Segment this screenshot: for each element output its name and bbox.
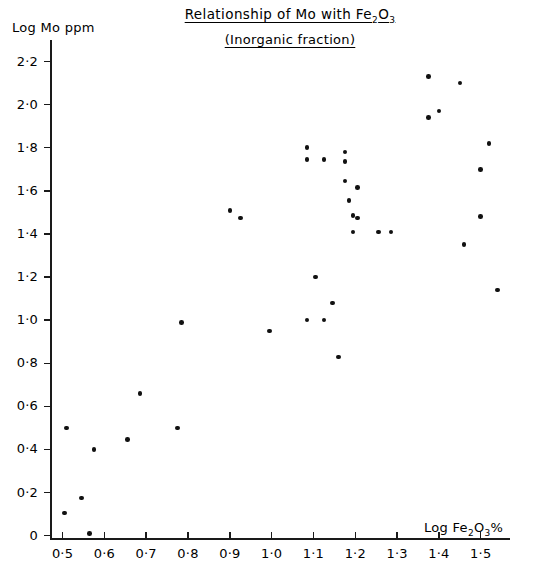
scatter-figure: Relationship of Mo with Fe2O3 (Inorganic… xyxy=(0,0,535,588)
data-point xyxy=(138,391,143,396)
x-tick xyxy=(229,532,230,538)
y-tick xyxy=(44,492,50,493)
data-point xyxy=(347,198,352,203)
data-point xyxy=(458,81,463,86)
y-axis-line xyxy=(50,40,52,540)
data-point xyxy=(426,115,431,120)
data-point xyxy=(62,511,67,516)
y-tick xyxy=(44,535,50,536)
x-tick xyxy=(271,532,272,538)
y-tick-label: 1·6 xyxy=(4,183,38,198)
y-tick-label: 1·4 xyxy=(4,226,38,241)
y-tick xyxy=(44,406,50,407)
x-tick xyxy=(187,532,188,538)
data-point xyxy=(92,447,97,452)
data-point xyxy=(478,214,483,219)
data-point xyxy=(179,320,184,325)
data-point xyxy=(79,496,84,501)
x-tick-label: 1·4 xyxy=(419,546,459,561)
x-tick xyxy=(313,532,314,538)
y-tick xyxy=(44,319,50,320)
x-tick xyxy=(104,532,105,538)
y-tick-label: 1·2 xyxy=(4,269,38,284)
x-tick-label: 0·9 xyxy=(210,546,250,561)
y-tick xyxy=(44,190,50,191)
y-tick-label: 2·0 xyxy=(4,97,38,112)
x-tick-label: 1·2 xyxy=(335,546,375,561)
data-point xyxy=(305,157,310,162)
y-tick xyxy=(44,276,50,277)
x-tick xyxy=(145,532,146,538)
data-point xyxy=(495,288,500,293)
data-point xyxy=(305,318,310,323)
data-point xyxy=(355,185,360,190)
data-point xyxy=(343,179,348,184)
data-point xyxy=(376,230,381,235)
data-point xyxy=(462,242,467,247)
x-tick-label: 1·5 xyxy=(461,546,501,561)
x-tick-label: 0·5 xyxy=(43,546,83,561)
y-tick-label: 2·2 xyxy=(4,54,38,69)
y-tick-label: 1·8 xyxy=(4,140,38,155)
data-point xyxy=(87,531,92,536)
x-tick xyxy=(62,532,63,538)
x-axis-line xyxy=(50,538,510,540)
y-tick xyxy=(44,449,50,450)
x-tick-label: 0·6 xyxy=(84,546,124,561)
x-tick-label: 0·7 xyxy=(126,546,166,561)
data-point xyxy=(330,301,335,306)
data-point xyxy=(238,216,243,221)
x-tick xyxy=(438,532,439,538)
data-point xyxy=(305,145,310,150)
x-tick xyxy=(355,532,356,538)
y-tick xyxy=(44,147,50,148)
data-point xyxy=(228,208,233,213)
data-point xyxy=(175,426,180,431)
data-point xyxy=(389,230,394,235)
data-point xyxy=(487,141,492,146)
y-tick xyxy=(44,233,50,234)
data-point xyxy=(343,159,348,164)
data-point xyxy=(267,329,272,334)
y-tick-label: 0·8 xyxy=(4,355,38,370)
x-tick xyxy=(396,532,397,538)
data-point xyxy=(322,157,327,162)
x-tick-label: 1·3 xyxy=(377,546,417,561)
data-point xyxy=(437,109,442,114)
data-point xyxy=(351,230,356,235)
x-tick-label: 1·1 xyxy=(293,546,333,561)
y-tick xyxy=(44,363,50,364)
x-tick xyxy=(480,532,481,538)
data-point xyxy=(343,150,348,155)
y-tick xyxy=(44,104,50,105)
data-point xyxy=(426,74,431,79)
y-tick-label: 0·6 xyxy=(4,398,38,413)
plot-area: 00·20·40·60·81·01·21·41·61·82·02·20·50·6… xyxy=(0,0,535,588)
x-tick-label: 0·8 xyxy=(168,546,208,561)
y-tick-label: 0·2 xyxy=(4,485,38,500)
data-point xyxy=(336,355,341,360)
data-point xyxy=(64,426,69,431)
y-tick-label: 1·0 xyxy=(4,312,38,327)
data-point xyxy=(313,275,318,280)
x-tick-label: 1·0 xyxy=(252,546,292,561)
data-point xyxy=(478,167,483,172)
data-point xyxy=(355,216,360,221)
y-tick-label: 0 xyxy=(4,528,38,543)
y-tick-label: 0·4 xyxy=(4,441,38,456)
data-point xyxy=(322,318,327,323)
data-point xyxy=(125,437,130,442)
y-tick xyxy=(44,61,50,62)
